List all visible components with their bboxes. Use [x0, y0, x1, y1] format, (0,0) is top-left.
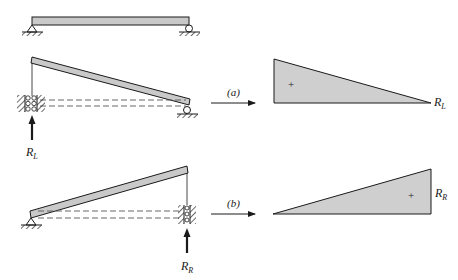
reaction-label-rr: RR — [180, 259, 193, 275]
roller-support-icon — [179, 25, 200, 36]
reaction-label-rl: RL — [25, 145, 38, 161]
case-a-deflected-beam: RL — [17, 57, 198, 161]
pin-support-icon — [22, 25, 43, 36]
case-b-deflected-beam: RR — [21, 166, 196, 275]
guided-roller-support-icon — [178, 205, 196, 224]
diagram-label-rl: RL — [433, 95, 446, 111]
beam — [32, 17, 189, 25]
influence-line-b: + RR — [273, 169, 447, 214]
transform-arrow-a: (a) — [211, 86, 255, 103]
sign-plus-a: + — [288, 78, 294, 90]
rotated-beam — [31, 57, 190, 105]
roller-support-icon — [177, 107, 198, 119]
reaction-arrow-icon — [184, 228, 191, 253]
influence-line-a: + RL — [274, 59, 446, 111]
influence-line-diagram: RL (a) + RL — [0, 0, 458, 280]
pin-support-icon — [21, 218, 42, 229]
reaction-arrow-icon — [29, 115, 36, 140]
guided-roller-support-icon — [17, 95, 45, 112]
rotated-beam — [30, 166, 188, 218]
transform-arrow-b: (b) — [211, 197, 255, 214]
diagram-label-rr: RR — [434, 186, 447, 202]
triangle-a — [274, 59, 431, 103]
case-a-label: (a) — [227, 86, 240, 99]
sign-plus-b: + — [408, 189, 414, 201]
simply-supported-beam — [22, 17, 200, 36]
case-b-label: (b) — [227, 197, 240, 210]
